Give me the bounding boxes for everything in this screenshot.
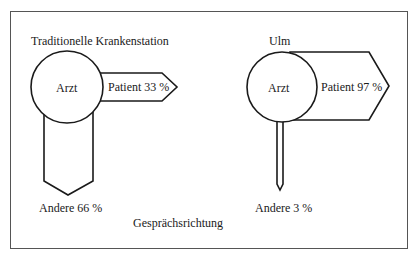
arzt-label-traditional: Arzt [56, 81, 77, 95]
arzt-label-ulm: Arzt [268, 81, 289, 95]
patient-label-ulm: Patient 97 % [321, 80, 382, 94]
patient-label-traditional: Patient 33 % [108, 80, 169, 94]
andere-label-traditional: Andere 66 % [39, 201, 102, 215]
panel-title-ulm: Ulm [269, 34, 290, 48]
panel-title-traditional: Traditionelle Krankenstation [31, 34, 169, 48]
figure-caption: Gesprächsrichtung [133, 216, 223, 230]
andere-label-ulm: Andere 3 % [255, 201, 312, 215]
